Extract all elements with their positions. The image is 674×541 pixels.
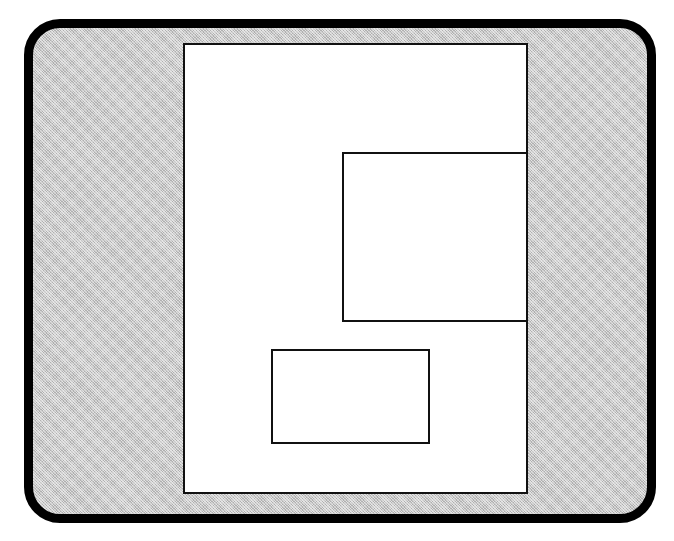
- content-frame-bottom[interactable]: [271, 349, 430, 444]
- content-frame-right[interactable]: [342, 152, 528, 322]
